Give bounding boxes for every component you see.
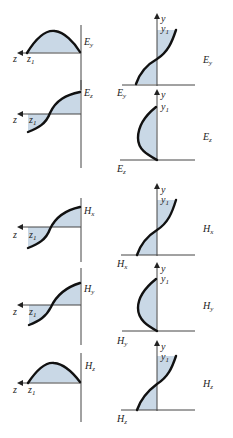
svg-text:Hy: Hy [83, 283, 95, 296]
svg-text:Ez: Ez [116, 163, 126, 176]
field-profile-diagram: Ey z z1 Ez z z1 Hx z z1 Hy z z1 [0, 0, 233, 438]
svg-text:Hy: Hy [116, 335, 128, 348]
svg-text:Hx: Hx [116, 258, 128, 271]
svg-text:Hy: Hy [202, 300, 214, 313]
svg-text:z: z [12, 306, 17, 317]
right-panel-hx: y y1 Hx Hx [116, 184, 214, 271]
svg-text:z: z [12, 229, 17, 240]
svg-text:y1: y1 [160, 273, 169, 286]
right-panel-ez: y y1 Ez Ez [116, 89, 212, 176]
right-panel-hy: y y1 Hy Hy [116, 263, 214, 348]
left-panel-hz: Hz z z1 [12, 353, 95, 422]
svg-text:z: z [12, 53, 17, 64]
svg-text:Hz: Hz [202, 378, 213, 391]
svg-text:z: z [12, 384, 17, 395]
svg-text:Ey: Ey [116, 87, 127, 100]
right-panel-ey: y y1 Ey Ey [116, 13, 213, 100]
svg-text:Ez: Ez [202, 131, 212, 144]
svg-text:Ey: Ey [83, 36, 94, 49]
svg-text:Hx: Hx [202, 223, 214, 236]
svg-text:Ez: Ez [83, 87, 93, 100]
svg-text:Hx: Hx [83, 205, 95, 218]
svg-text:z1: z1 [27, 384, 35, 397]
svg-text:y: y [160, 89, 166, 100]
right-panel-hz: y y1 Hz Hz [116, 341, 213, 426]
svg-text:Ey: Ey [202, 54, 213, 67]
left-panel-hy: Hy z z1 [12, 268, 95, 345]
left-panel-hx: Hx z z1 [12, 198, 95, 262]
svg-text:y1: y1 [160, 101, 169, 114]
left-panel-ez: Ez z z1 [12, 80, 93, 168]
left-panel-ey: Ey z z1 [12, 25, 94, 90]
svg-text:z1: z1 [26, 53, 34, 66]
svg-text:Hz: Hz [116, 413, 127, 426]
svg-text:z: z [12, 114, 17, 125]
svg-text:Hz: Hz [84, 360, 95, 373]
